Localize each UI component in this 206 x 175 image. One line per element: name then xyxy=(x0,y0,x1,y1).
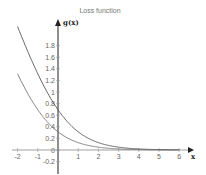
y-tick-label: 1 xyxy=(51,89,55,96)
y-tick-label: 0.6 xyxy=(45,112,55,119)
y-tick-label: 1.2 xyxy=(45,77,55,84)
curve-upper xyxy=(18,27,180,150)
y-tick-label: -0.2 xyxy=(43,158,55,165)
chart-title: Loss function xyxy=(79,7,120,14)
axes: x g(x) -2-1123456 -0.200.20.40.60.811.21… xyxy=(12,18,196,174)
loss-function-chart: Loss function x g(x) -2-1123456 -0.200.2… xyxy=(0,0,206,175)
x-tick-label: 3 xyxy=(117,153,121,160)
y-tick-label: 0.2 xyxy=(45,135,55,142)
x-tick-label: 5 xyxy=(157,153,161,160)
x-tick-label: -1 xyxy=(35,153,41,160)
x-tick-label: -2 xyxy=(14,153,20,160)
x-tick-label: 6 xyxy=(177,153,181,160)
x-axis-label: x xyxy=(191,152,196,161)
y-tick-label: 0 xyxy=(51,147,55,154)
x-tick-label: 2 xyxy=(96,153,100,160)
y-tick-label: 1.8 xyxy=(45,42,55,49)
x-tick-label: 1 xyxy=(76,153,80,160)
curves xyxy=(18,27,180,150)
y-axis-arrow-icon xyxy=(55,19,61,26)
curve-lower xyxy=(18,74,180,150)
y-tick-label: 1.6 xyxy=(45,54,55,61)
y-tick-label: 1.4 xyxy=(45,65,55,72)
x-tick-label: 4 xyxy=(137,153,141,160)
y-axis-label: g(x) xyxy=(63,18,79,27)
